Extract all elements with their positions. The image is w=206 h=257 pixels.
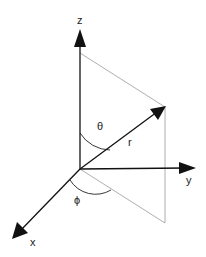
plane-top-edge: [80, 53, 165, 107]
y-axis-label: y: [186, 174, 192, 186]
radius-label: r: [128, 136, 132, 148]
phi-arc: [70, 180, 111, 194]
phi-label: ϕ: [74, 194, 80, 206]
z-axis-label: z: [77, 14, 83, 26]
z-arrowhead: [74, 29, 86, 47]
axes: [12, 29, 196, 239]
y-axis: [80, 168, 186, 169]
xy-projection-line: [80, 169, 165, 223]
x-axis: [20, 169, 80, 231]
spherical-coordinates-diagram: z y x θ r ϕ: [0, 0, 206, 257]
x-axis-label: x: [30, 236, 36, 248]
radius-vector: [80, 112, 157, 169]
theta-arc: [80, 133, 110, 150]
radius-arrowhead: [150, 106, 166, 120]
y-arrowhead: [179, 162, 196, 174]
theta-label: θ: [97, 120, 103, 132]
